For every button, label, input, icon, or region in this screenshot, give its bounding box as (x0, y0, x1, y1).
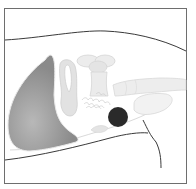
anatomical-figure (0, 0, 196, 189)
upper-lobe-center (89, 61, 107, 73)
dark-spot-lesion (108, 107, 128, 127)
illustration-canvas (0, 0, 196, 189)
